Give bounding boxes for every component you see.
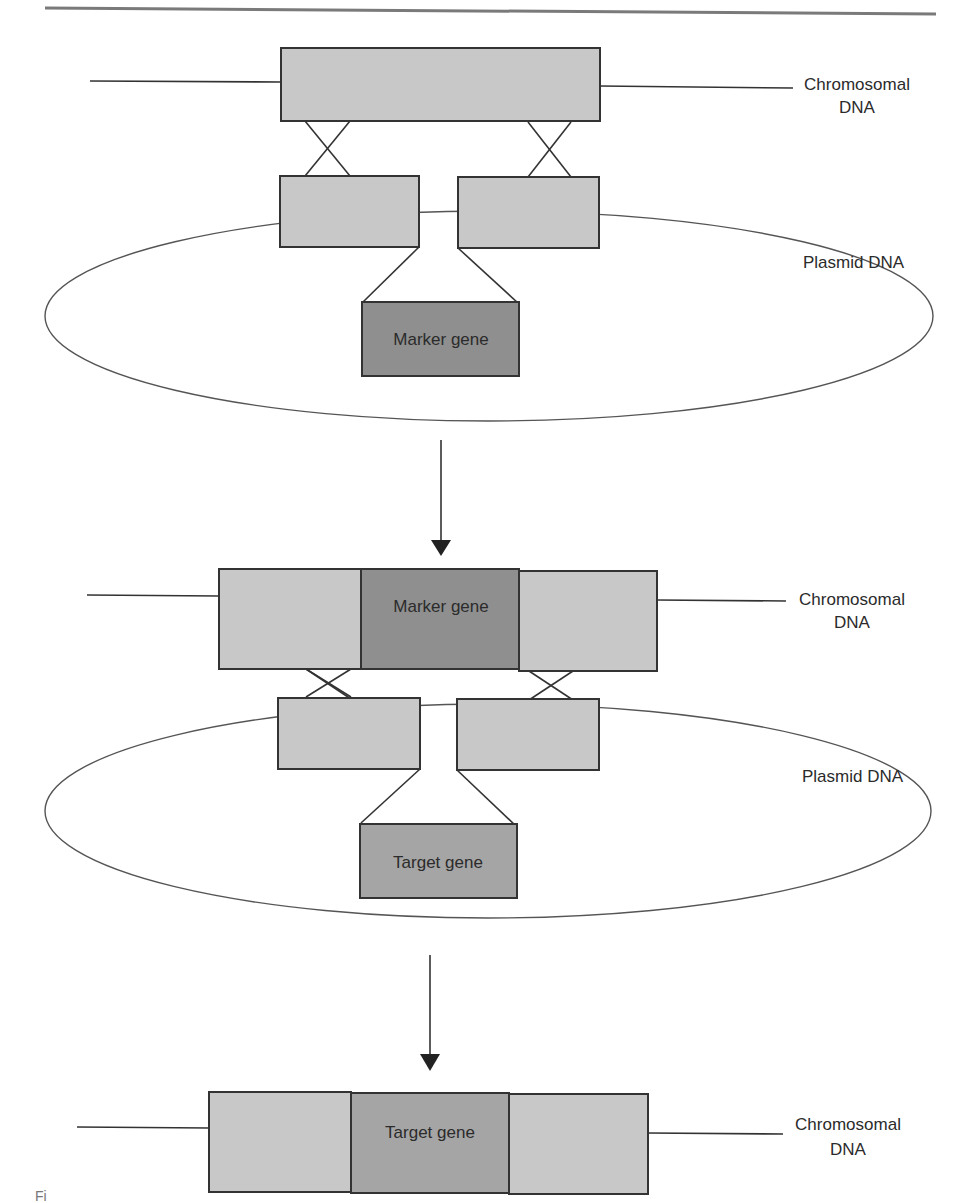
chromosome-line-right <box>600 86 793 88</box>
step1-group: Chromosomal DNA Marker gene Plasmid DNA <box>45 48 933 421</box>
chromosome-marker-gene <box>361 569 519 669</box>
chromosome-line-right <box>657 600 786 601</box>
plasmid-arm-left <box>280 176 419 247</box>
chromosome-label-line2: DNA <box>830 1140 867 1159</box>
taper-left <box>361 769 420 823</box>
arrow-down-icon <box>420 955 440 1071</box>
chromosome-line-right <box>648 1133 783 1134</box>
chromosome-label-line2: DNA <box>834 613 871 632</box>
plasmid-label: Plasmid DNA <box>803 253 905 272</box>
chromosome-label: Chromosomal <box>804 75 910 94</box>
chromosome-label-line2: DNA <box>839 98 876 117</box>
taper-left <box>363 247 419 302</box>
arrow-down-icon <box>431 440 451 556</box>
chromosome-target-gene <box>351 1093 509 1193</box>
step3-group: Target gene Chromosomal DNA <box>77 1092 901 1194</box>
crossover-left <box>305 121 350 176</box>
target-gene-label: Target gene <box>393 853 483 872</box>
recombination-diagram: Chromosomal DNA Marker gene Plasmid DNA <box>0 0 965 1203</box>
step2-group: Marker gene Chromosomal DNA Target gene … <box>45 569 931 918</box>
chromosome-line-left <box>87 595 219 596</box>
chromosome-label: Chromosomal <box>799 590 905 609</box>
plasmid-label: Plasmid DNA <box>802 767 904 786</box>
chromosome-homology-region <box>281 48 600 121</box>
chromosome-arm-left <box>219 569 361 669</box>
chromosome-gene-label: Marker gene <box>393 597 488 616</box>
chromosome-line-left <box>77 1127 209 1128</box>
chromosome-line-left <box>90 81 281 82</box>
chromosome-arm-right <box>509 1094 648 1194</box>
marker-gene-label: Marker gene <box>393 330 488 349</box>
crossover-right <box>529 671 573 700</box>
crossover-right <box>528 122 571 177</box>
page-top-rule <box>45 8 936 14</box>
chromosome-arm-left <box>209 1092 351 1192</box>
plasmid-arm-right <box>458 177 599 248</box>
chromosome-arm-right <box>519 571 657 671</box>
chromosome-gene-label: Target gene <box>385 1123 475 1142</box>
plasmid-arm-left <box>278 698 420 769</box>
plasmid-arm-right <box>457 699 599 770</box>
step1-chromosome <box>90 48 793 121</box>
taper-right <box>458 248 518 303</box>
taper-right <box>457 770 516 826</box>
chromosome-label: Chromosomal <box>795 1115 901 1134</box>
figure-caption-fragment: Fi <box>35 1188 47 1203</box>
